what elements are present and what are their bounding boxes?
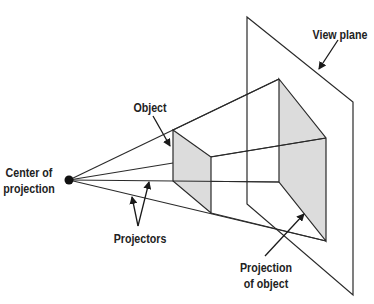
center-of-projection-label-line2: projection [0,181,57,196]
projector-arrow-1 [132,197,138,226]
diagram-graphic [0,0,374,304]
center-of-projection-point [65,176,74,185]
projection-of-object-label-line2: of object [235,276,297,291]
center-of-projection-label-line1: Center of [0,165,57,180]
object-arrow [153,116,170,146]
view-plane-label: View plane [307,27,373,42]
projection-of-object-label-line1: Projection [235,260,297,275]
projection-arrow [265,214,304,256]
projection-of-object [279,79,326,241]
projectors-label: Projectors [107,231,173,246]
object-label: Object [125,100,174,115]
view-plane-arrow [319,40,338,69]
projector-arrow-2 [138,182,149,226]
perspective-projection-diagram: View plane Object Center of projection P… [0,0,374,304]
object [173,130,211,213]
